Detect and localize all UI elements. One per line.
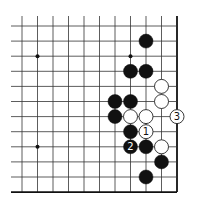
- white-stone-icon: [155, 95, 169, 109]
- move-number-label: 2: [127, 141, 133, 152]
- white-stone-move-3: 3: [170, 110, 184, 124]
- white-stone: [155, 79, 169, 93]
- move-number-label: 3: [174, 111, 180, 122]
- move-number-label: 1: [143, 126, 149, 137]
- black-stone-icon: [108, 95, 122, 109]
- black-stone: [124, 95, 138, 109]
- black-stone: [108, 95, 122, 109]
- black-stone: [139, 140, 153, 154]
- white-stone-icon: [139, 110, 153, 124]
- white-stone: [155, 140, 169, 154]
- hoshi-point: [36, 54, 40, 58]
- black-stone-icon: [139, 64, 153, 78]
- black-stone: [139, 64, 153, 78]
- black-stone-move-2: 2: [124, 140, 138, 154]
- black-stone: [139, 170, 153, 184]
- white-stone: [139, 110, 153, 124]
- black-stone: [139, 34, 153, 48]
- black-stone-icon: [155, 155, 169, 169]
- white-stone-icon: [155, 140, 169, 154]
- black-stone: [108, 110, 122, 124]
- white-stone: [124, 110, 138, 124]
- white-stone: [155, 95, 169, 109]
- hoshi-point: [36, 145, 40, 149]
- black-stone: [124, 64, 138, 78]
- black-stone: [124, 125, 138, 139]
- go-board-diagram: 312: [0, 0, 197, 206]
- black-stone-icon: [139, 140, 153, 154]
- black-stone-icon: [124, 125, 138, 139]
- black-stone: [155, 155, 169, 169]
- black-stone-icon: [139, 170, 153, 184]
- hoshi-point: [129, 54, 133, 58]
- black-stone-icon: [108, 110, 122, 124]
- white-stone-icon: [124, 110, 138, 124]
- black-stone-icon: [139, 34, 153, 48]
- black-stone-icon: [124, 95, 138, 109]
- white-stone-move-1: 1: [139, 125, 153, 139]
- white-stone-icon: [155, 79, 169, 93]
- black-stone-icon: [124, 64, 138, 78]
